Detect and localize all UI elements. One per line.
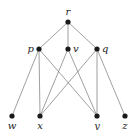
- label-v: v: [73, 43, 79, 54]
- label-y: y: [93, 120, 100, 130]
- node-p: [36, 46, 41, 51]
- node-v: [65, 46, 70, 51]
- edge-v-x: [40, 49, 68, 116]
- node-x: [37, 113, 42, 118]
- edge-q-z: [97, 49, 125, 116]
- nodes: [9, 19, 127, 118]
- edges: [12, 22, 125, 116]
- node-r: [65, 19, 70, 24]
- label-w: w: [8, 120, 17, 130]
- node-w: [9, 113, 14, 118]
- node-y: [94, 113, 99, 118]
- label-r: r: [66, 6, 72, 17]
- label-x: x: [37, 120, 43, 130]
- node-q: [94, 46, 99, 51]
- edge-v-y: [68, 49, 97, 116]
- label-q: q: [102, 43, 108, 54]
- edge-p-x: [39, 49, 40, 116]
- edge-r-p: [39, 22, 68, 49]
- hasse-diagram: rpvqwxyz: [0, 0, 136, 130]
- edge-p-w: [12, 49, 39, 116]
- label-p: p: [28, 43, 35, 54]
- label-z: z: [121, 120, 128, 130]
- node-z: [122, 113, 127, 118]
